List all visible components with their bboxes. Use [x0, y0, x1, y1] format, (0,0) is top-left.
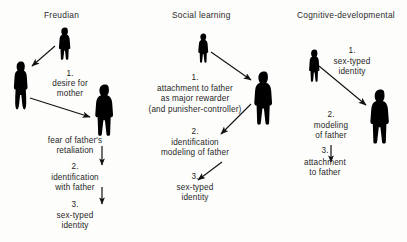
freudian-fear-text: fear of father's retaliation [28, 136, 122, 157]
freudian-mother-figure [12, 61, 30, 110]
cognitive-step1-line2: identity [322, 67, 382, 77]
cognitive-step1-number: 1. [322, 46, 382, 56]
cognitive-step3-line2: to father [290, 168, 360, 178]
freudian-step1-line1: desire for [40, 79, 100, 89]
social-step2-number: 2. [140, 127, 250, 137]
freudian-step3-number: 3. [35, 200, 115, 210]
freudian-step3-text: sex-typed identity [28, 211, 122, 232]
social-step1-line1: attachment to father [138, 84, 252, 94]
social-step1-line3: (and punisher-controller) [138, 105, 252, 115]
freudian-step2-text: identification with father [28, 173, 122, 194]
freudian-fear-line1: fear of father's [28, 136, 122, 146]
freudian-step2-line1: identification [28, 173, 122, 183]
cognitive-step2-text: modeling of father [296, 121, 366, 142]
freudian-step2-number: 2. [35, 162, 115, 172]
cognitive-step1-text: sex-typed identity [322, 57, 382, 78]
cognitive-step3-line1: attachment [290, 158, 360, 168]
social-step2-line2: modeling of father [138, 148, 252, 158]
social-step1-text: attachment to father as major rewarder (… [138, 84, 252, 115]
cognitive-step2-line2: of father [296, 131, 366, 141]
column-title-social-learning: Social learning [172, 10, 231, 20]
social-step3-line2: identity [148, 193, 242, 203]
arrow-freudian-child-to-mother [32, 46, 55, 66]
social-step3-text: sex-typed identity [148, 183, 242, 204]
freudian-fear-line2: retaliation [28, 146, 122, 156]
cognitive-father-figure [369, 89, 392, 144]
cognitive-step3-text: attachment to father [290, 158, 360, 179]
cognitive-step1-line1: sex-typed [322, 57, 382, 67]
freudian-step2-line2: with father [28, 183, 122, 193]
cognitive-child-figure [307, 49, 322, 82]
social-step1-number: 1. [140, 73, 250, 83]
freudian-child-figure [56, 27, 74, 60]
social-step1-line2: as major rewarder [138, 94, 252, 104]
sex-role-development-theories-diagram: Freudian Social learning Cognitive-devel… [0, 0, 407, 242]
social-step2-text: identification modeling of father [138, 138, 252, 159]
freudian-step1-text: desire for mother [40, 79, 100, 100]
social-step2-line1: identification [138, 138, 252, 148]
social-step3-line1: sex-typed [148, 183, 242, 193]
column-title-freudian: Freudian [44, 10, 79, 20]
freudian-step1-number: 1. [40, 69, 100, 79]
freudian-step3-line2: identity [28, 221, 122, 231]
social-learning-father-figure [253, 71, 275, 125]
cognitive-step2-line1: modeling [296, 121, 366, 131]
arrow-freudian-mother-to-father [30, 98, 90, 117]
social-step3-number: 3. [148, 172, 242, 182]
freudian-step3-line1: sex-typed [28, 211, 122, 221]
freudian-step1-line2: mother [40, 89, 100, 99]
column-title-cognitive-developmental: Cognitive-developmental [297, 10, 395, 20]
cognitive-step2-number: 2. [296, 110, 366, 120]
cognitive-step3-number: 3. [290, 146, 360, 156]
social-learning-child-figure [196, 33, 211, 63]
